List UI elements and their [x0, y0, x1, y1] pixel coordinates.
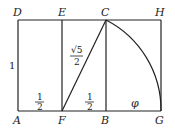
diagonal-FC [62, 20, 106, 111]
label-F: F [57, 114, 66, 127]
label-B: B [100, 114, 109, 127]
label-AF-den: 2 [37, 102, 43, 112]
label-AD-length: 1 [9, 60, 15, 71]
label-C: C [101, 6, 110, 19]
label-H: H [154, 6, 165, 19]
label-FB-den: 2 [87, 102, 93, 112]
label-A: A [12, 114, 21, 127]
golden-rectangle-diagram: D E C H A F B G 1 1 2 1 2 √5 2 φ [0, 0, 175, 129]
label-G: G [155, 114, 164, 127]
label-E: E [57, 6, 66, 19]
label-BG-phi: φ [131, 97, 139, 110]
label-D: D [12, 6, 22, 19]
label-AF-num: 1 [37, 92, 43, 102]
label-FC-den: 2 [74, 57, 80, 67]
label-FC-num: √5 [71, 45, 83, 55]
label-FB-num: 1 [87, 92, 93, 102]
